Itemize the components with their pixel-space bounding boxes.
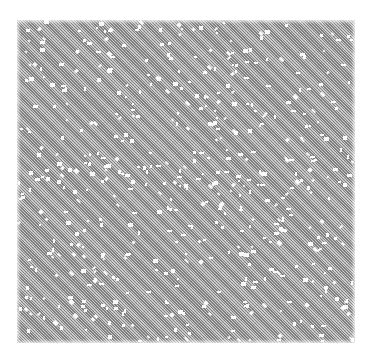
white-speck — [150, 83, 152, 86]
white-speck — [331, 32, 335, 36]
white-speck — [336, 39, 341, 41]
white-speck — [185, 253, 187, 255]
white-speck — [325, 289, 327, 293]
white-speck — [350, 39, 353, 41]
white-speck — [87, 42, 92, 45]
white-speck — [175, 241, 178, 243]
white-speck — [307, 167, 313, 173]
white-speck — [237, 338, 241, 342]
white-speck — [220, 137, 223, 140]
white-speck — [249, 225, 251, 228]
white-speck — [289, 214, 293, 216]
white-speck — [90, 172, 95, 176]
white-speck — [216, 128, 220, 130]
white-speck — [164, 315, 168, 317]
white-speck — [108, 30, 112, 32]
white-speck — [108, 335, 112, 339]
white-speck — [237, 245, 241, 249]
white-speck — [208, 122, 211, 126]
white-speck — [177, 112, 179, 115]
white-speck — [165, 302, 169, 304]
white-speck — [125, 96, 127, 98]
white-speck — [76, 199, 81, 204]
white-speck — [53, 105, 56, 108]
white-speck — [89, 153, 91, 156]
white-speck — [214, 67, 216, 71]
white-speck — [234, 131, 238, 135]
white-speck — [103, 271, 108, 276]
white-speck — [245, 277, 247, 281]
white-speck — [168, 42, 171, 45]
white-speck — [235, 70, 237, 73]
white-speck — [295, 265, 298, 268]
white-speck — [246, 304, 249, 308]
white-speck — [132, 103, 134, 105]
white-speck — [125, 254, 130, 256]
white-speck — [243, 49, 248, 53]
white-speck — [179, 185, 181, 187]
white-speck — [131, 240, 135, 244]
white-speck — [181, 234, 186, 236]
white-speck — [132, 212, 137, 214]
white-speck — [343, 183, 347, 187]
white-speck — [324, 137, 329, 141]
white-speck — [113, 300, 118, 304]
white-speck — [251, 151, 256, 153]
white-speck — [39, 224, 41, 226]
white-speck — [37, 153, 41, 157]
white-speck — [136, 115, 140, 118]
white-speck — [317, 236, 320, 239]
white-speck — [251, 218, 255, 222]
white-speck — [245, 61, 249, 63]
white-speck — [66, 119, 69, 122]
white-speck — [289, 159, 294, 161]
white-speck — [326, 71, 330, 75]
white-speck — [188, 225, 193, 227]
image-canvas — [0, 0, 372, 358]
white-speck — [173, 180, 178, 185]
white-speck — [321, 325, 326, 327]
white-speck — [160, 43, 164, 46]
white-speck — [328, 197, 330, 200]
white-speck — [299, 88, 301, 92]
white-speck — [273, 271, 277, 273]
white-speck — [230, 190, 233, 193]
white-speck — [61, 136, 64, 140]
white-speck — [112, 276, 115, 279]
white-speck — [338, 181, 341, 183]
white-speck — [19, 307, 22, 311]
white-speck — [57, 253, 61, 257]
white-speck — [321, 340, 324, 342]
white-speck — [191, 27, 195, 31]
white-speck — [186, 324, 189, 326]
white-speck — [286, 101, 291, 104]
white-speck — [26, 29, 30, 32]
white-speck — [124, 133, 128, 137]
white-speck — [100, 223, 103, 227]
white-speck — [311, 109, 316, 114]
white-speck — [215, 138, 219, 142]
white-speck — [33, 62, 38, 67]
white-speck — [72, 252, 77, 257]
white-speck — [60, 326, 63, 330]
white-speck — [286, 208, 291, 210]
white-speck — [240, 230, 244, 232]
white-speck — [311, 280, 315, 284]
white-speck — [29, 188, 31, 192]
white-speck — [84, 155, 87, 158]
white-speck — [202, 173, 204, 175]
white-speck — [96, 27, 98, 29]
white-speck — [84, 162, 87, 164]
white-speck — [57, 180, 61, 184]
white-speck — [287, 301, 292, 303]
white-speck — [324, 286, 328, 289]
white-speck — [317, 121, 320, 124]
white-speck — [300, 320, 302, 323]
white-speck — [104, 37, 109, 42]
white-speck — [202, 305, 206, 308]
white-speck — [280, 310, 283, 313]
white-speck — [285, 138, 290, 143]
white-speck — [33, 105, 38, 108]
white-speck — [138, 231, 140, 235]
white-speck — [347, 174, 352, 177]
